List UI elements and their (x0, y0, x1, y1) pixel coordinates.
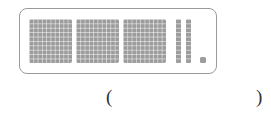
ten-rod-2 (186, 19, 191, 63)
answer-blank[interactable] (118, 84, 248, 108)
open-paren: ( (106, 84, 112, 110)
close-paren: ) (256, 84, 262, 110)
hundred-block-1 (29, 19, 72, 63)
ten-rod-1 (176, 19, 181, 63)
hundred-block-2 (76, 19, 119, 63)
one-cube (200, 57, 206, 63)
hundred-block-3 (123, 19, 166, 63)
